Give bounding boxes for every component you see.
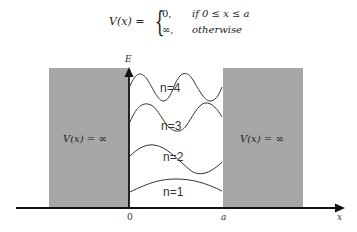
origin-label: 0 [127, 212, 133, 222]
y-axis-arrow-icon [125, 67, 134, 77]
y-axis-label: E [125, 54, 132, 64]
x-axis-label: x [337, 212, 342, 222]
level-label-n3: n=3 [161, 119, 181, 133]
level-label-n2: n=2 [163, 150, 183, 164]
level-label-n4: n=4 [160, 81, 180, 95]
well-edge-label: a [221, 212, 226, 222]
level-label-n1: n=1 [163, 185, 183, 199]
